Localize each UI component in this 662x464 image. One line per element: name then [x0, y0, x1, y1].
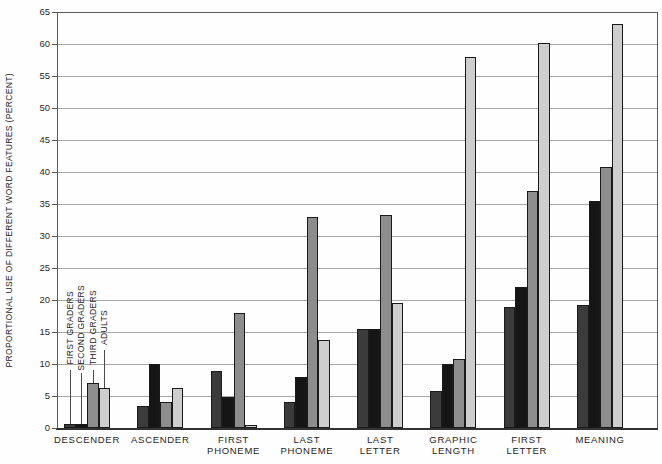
y-tick-mark-35	[52, 204, 57, 205]
y-axis-line	[57, 12, 58, 428]
bar-ascender-second-graders	[149, 364, 161, 428]
y-tick-label-60: 60	[28, 38, 50, 50]
bar-descender-adults	[99, 388, 111, 428]
bar-descender-third-graders	[87, 383, 99, 428]
y-tick-label-10: 10	[28, 358, 50, 370]
bar-last-phoneme-third-graders	[307, 217, 319, 428]
gridline-25	[57, 268, 658, 269]
plot-area	[57, 12, 658, 428]
x-label-ascender: ASCENDER	[118, 434, 202, 445]
y-tick-mark-25	[52, 268, 57, 269]
legend-leader-line-second-graders	[81, 373, 82, 424]
legend-label-third-graders: THIRD GRADERS	[88, 290, 98, 365]
bar-last-phoneme-second-graders	[295, 377, 307, 428]
bar-graphic-length-second-graders	[442, 364, 454, 428]
gridline-45	[57, 140, 658, 141]
x-axis-line	[56, 428, 658, 430]
x-label-last-letter: LAST LETTER	[338, 434, 422, 456]
gridline-20	[57, 300, 658, 301]
y-tick-mark-45	[52, 140, 57, 141]
x-label-descender: DESCENDER	[45, 434, 129, 445]
bar-first-phoneme-second-graders	[222, 397, 234, 428]
bar-graphic-length-adults	[465, 57, 477, 428]
bar-meaning-adults	[612, 24, 624, 428]
y-tick-mark-30	[52, 236, 57, 237]
gridline-35	[57, 204, 658, 205]
bar-meaning-third-graders	[600, 167, 612, 428]
x-label-graphic-length: GRAPHIC LENGTH	[411, 434, 495, 456]
gridline-55	[57, 76, 658, 77]
y-tick-label-35: 35	[28, 198, 50, 210]
legend-label-adults: ADULTS	[99, 310, 109, 345]
x-label-first-letter: FIRST LETTER	[485, 434, 569, 456]
bar-first-letter-third-graders	[527, 191, 539, 428]
y-tick-label-20: 20	[28, 294, 50, 306]
legend-label-first-graders: FIRST GRADERS	[65, 291, 75, 364]
y-tick-mark-10	[52, 364, 57, 365]
gridline-60	[57, 44, 658, 45]
plot-frame-right	[657, 12, 658, 428]
y-tick-mark-0	[52, 428, 57, 429]
y-tick-label-0: 0	[28, 422, 50, 434]
x-label-last-phoneme: LAST PHONEME	[265, 434, 349, 456]
y-tick-mark-55	[52, 76, 57, 77]
bar-ascender-third-graders	[160, 402, 172, 428]
bar-ascender-adults	[172, 388, 184, 428]
y-axis-title: PROPORTIONAL USE OF DIFFERENT WORD FEATU…	[4, 73, 14, 368]
bar-last-phoneme-adults	[318, 340, 330, 428]
y-axis-title-wrap: PROPORTIONAL USE OF DIFFERENT WORD FEATU…	[2, 12, 16, 428]
y-tick-label-45: 45	[28, 134, 50, 146]
gridline-40	[57, 172, 658, 173]
y-tick-label-15: 15	[28, 326, 50, 338]
legend-leader-line-third-graders	[93, 370, 94, 383]
bar-first-letter-adults	[538, 43, 550, 428]
bar-meaning-first-graders	[577, 305, 589, 428]
bar-last-phoneme-first-graders	[284, 402, 296, 428]
y-tick-mark-40	[52, 172, 57, 173]
bar-ascender-first-graders	[137, 406, 149, 428]
y-tick-mark-15	[52, 332, 57, 333]
bar-meaning-second-graders	[589, 201, 601, 428]
bar-first-phoneme-adults	[245, 425, 257, 428]
y-tick-mark-65	[52, 12, 57, 13]
y-tick-label-5: 5	[28, 390, 50, 402]
legend-label-second-graders: SECOND GRADERS	[76, 285, 86, 371]
bar-graphic-length-third-graders	[453, 359, 465, 428]
bar-first-phoneme-third-graders	[234, 313, 246, 428]
bar-last-letter-first-graders	[357, 329, 369, 428]
y-tick-label-50: 50	[28, 102, 50, 114]
legend-leader-line-adults	[104, 350, 105, 388]
bar-first-phoneme-first-graders	[211, 371, 223, 428]
y-tick-mark-20	[52, 300, 57, 301]
y-tick-label-25: 25	[28, 262, 50, 274]
bar-last-letter-adults	[392, 303, 404, 428]
bar-graphic-length-first-graders	[430, 391, 442, 428]
y-tick-label-30: 30	[28, 230, 50, 242]
y-tick-label-65: 65	[28, 6, 50, 18]
y-tick-mark-50	[52, 108, 57, 109]
bar-first-letter-first-graders	[504, 307, 516, 428]
bar-descender-first-graders	[64, 424, 76, 428]
bar-chart-figure: PROPORTIONAL USE OF DIFFERENT WORD FEATU…	[0, 0, 662, 464]
bar-last-letter-third-graders	[380, 215, 392, 428]
x-label-first-phoneme: FIRST PHONEME	[192, 434, 276, 456]
gridline-30	[57, 236, 658, 237]
legend-leader-line-first-graders	[70, 370, 71, 424]
y-tick-mark-5	[52, 396, 57, 397]
gridline-50	[57, 108, 658, 109]
y-tick-label-40: 40	[28, 166, 50, 178]
plot-frame-top	[57, 12, 658, 13]
bar-descender-second-graders	[76, 424, 88, 428]
x-label-meaning: MEANING	[558, 434, 642, 445]
y-tick-mark-60	[52, 44, 57, 45]
bar-last-letter-second-graders	[369, 329, 381, 428]
y-tick-label-55: 55	[28, 70, 50, 82]
bar-first-letter-second-graders	[515, 287, 527, 428]
